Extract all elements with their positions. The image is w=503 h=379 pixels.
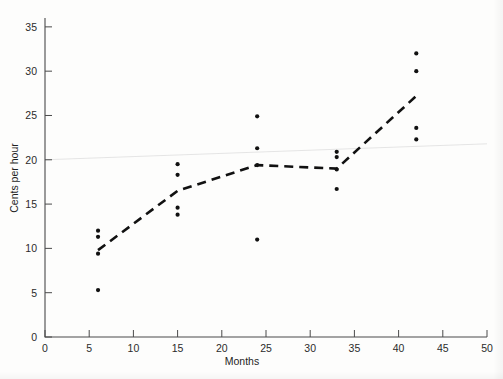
data-point <box>176 206 180 210</box>
x-tick-label: 35 <box>349 342 361 354</box>
x-tick-label: 45 <box>437 342 449 354</box>
x-tick-label: 30 <box>304 342 316 354</box>
data-point <box>335 187 339 191</box>
x-tick-label: 0 <box>42 342 48 354</box>
data-point <box>335 150 339 154</box>
data-point <box>414 69 418 73</box>
x-axis-label: Months <box>225 355 259 367</box>
data-point <box>335 155 339 159</box>
y-tick-label: 25 <box>25 109 37 121</box>
y-tick-label: 35 <box>25 21 37 33</box>
y-tick-label: 5 <box>31 287 37 299</box>
data-point <box>176 162 180 166</box>
data-points-group <box>96 51 418 292</box>
data-point <box>414 137 418 141</box>
data-point <box>414 126 418 130</box>
data-point <box>96 288 100 292</box>
y-axis-label: Cents per hour <box>8 143 20 213</box>
y-tick-label: 20 <box>25 154 37 166</box>
chart-container: 05101520253035404550 05101520253035 Mont… <box>0 0 503 379</box>
data-point <box>414 51 418 55</box>
x-axis-ticks: 05101520253035404550 <box>42 330 493 354</box>
scatter-plot: 05101520253035404550 05101520253035 Mont… <box>0 0 503 379</box>
trend-dashed-line <box>98 96 416 250</box>
y-tick-label: 10 <box>25 242 37 254</box>
axis-lines <box>45 18 487 337</box>
data-point <box>255 114 259 118</box>
y-tick-label: 0 <box>31 331 37 343</box>
x-tick-label: 40 <box>393 342 405 354</box>
data-point <box>96 252 100 256</box>
x-tick-label: 25 <box>260 342 272 354</box>
x-tick-label: 5 <box>86 342 92 354</box>
data-point <box>255 146 259 150</box>
axes-group <box>45 18 487 337</box>
y-tick-label: 30 <box>25 65 37 77</box>
data-point <box>335 167 339 171</box>
trend-line <box>98 96 416 250</box>
data-point <box>96 229 100 233</box>
reference-line <box>45 144 487 160</box>
x-tick-label: 15 <box>172 342 184 354</box>
data-point <box>96 235 100 239</box>
data-point <box>255 163 259 167</box>
y-axis-ticks: 05101520253035 <box>25 21 52 343</box>
data-point <box>255 237 259 241</box>
y-tick-label: 15 <box>25 198 37 210</box>
x-tick-label: 50 <box>481 342 493 354</box>
x-tick-label: 20 <box>216 342 228 354</box>
data-point <box>176 213 180 217</box>
faint-reference-line <box>45 144 487 160</box>
x-tick-label: 10 <box>128 342 140 354</box>
data-point <box>176 173 180 177</box>
